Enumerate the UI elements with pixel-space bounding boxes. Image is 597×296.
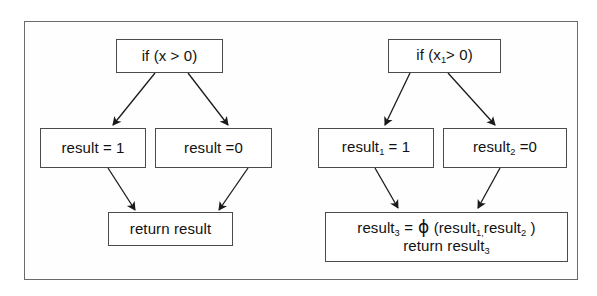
phi-function-icon: ϕ xyxy=(418,217,429,237)
left-condition-node: if (x > 0) xyxy=(116,39,223,73)
right-condition-node: if (x1> 0) xyxy=(388,39,501,73)
right-else-prefix: result xyxy=(473,138,510,155)
phi-arg1-name: (result xyxy=(429,219,476,236)
phi-close-paren: ) xyxy=(526,219,535,236)
left-join-node: return result xyxy=(108,212,233,246)
right-else-suffix: =0 xyxy=(515,138,537,155)
phi-return-line: return result3 xyxy=(403,238,490,256)
phi-assignment-line: result3 = ϕ (result1,result2 ) xyxy=(357,218,535,238)
right-then-suffix: = 1 xyxy=(384,138,410,155)
phi-arg2-name: result xyxy=(484,219,521,236)
phi-return-subscript: 3 xyxy=(485,246,490,256)
left-else-label: result =0 xyxy=(184,140,243,157)
left-then-label: result = 1 xyxy=(61,140,124,157)
left-condition-label: if (x > 0) xyxy=(142,48,198,65)
right-else-label: result2 =0 xyxy=(473,139,537,157)
left-then-node: result = 1 xyxy=(40,128,146,168)
right-condition-prefix: if (x xyxy=(416,46,441,63)
right-else-node: result2 =0 xyxy=(443,128,567,168)
right-then-node: result1 = 1 xyxy=(318,128,434,168)
right-then-prefix: result xyxy=(342,138,379,155)
diagram-canvas: if (x > 0) result = 1 result =0 return r… xyxy=(0,0,597,296)
right-join-phi-node: result3 = ϕ (result1,result2 ) return re… xyxy=(325,212,568,262)
right-condition-suffix: > 0) xyxy=(446,46,473,63)
left-join-label: return result xyxy=(130,221,211,238)
phi-equals-sign: = xyxy=(400,219,418,236)
right-condition-label: if (x1> 0) xyxy=(416,47,473,65)
phi-return-text: return result xyxy=(403,237,484,254)
phi-target-name: result xyxy=(357,219,394,236)
right-then-label: result1 = 1 xyxy=(342,139,410,157)
left-else-node: result =0 xyxy=(155,128,272,168)
